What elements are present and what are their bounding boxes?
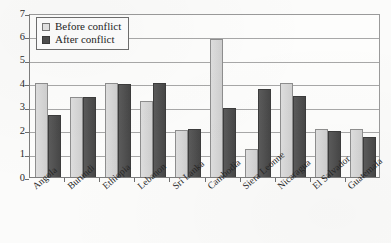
y-axis-tick-label: 1 — [3, 149, 25, 160]
bar-group — [245, 15, 271, 177]
legend-label-before: Before conflict — [55, 21, 121, 32]
bar — [210, 39, 223, 177]
bar — [70, 97, 83, 177]
legend-item-before: Before conflict — [42, 21, 121, 32]
y-axis-tick — [25, 15, 29, 16]
chart-legend: Before conflict After conflict — [36, 17, 129, 50]
bar-group — [175, 15, 201, 177]
legend-swatch-before-icon — [42, 23, 50, 31]
chart-figure: 01234567 AngolaBurundiEthiopiaLebanonSri… — [0, 0, 391, 243]
bar — [280, 83, 293, 177]
y-axis-tick-label: 4 — [3, 79, 25, 90]
bar-group — [350, 15, 376, 177]
y-axis-tick — [25, 85, 29, 86]
y-axis-tick-label: 3 — [3, 102, 25, 113]
bar — [105, 83, 118, 177]
y-axis-tick — [25, 109, 29, 110]
bar — [140, 101, 153, 177]
legend-swatch-after-icon — [42, 36, 50, 44]
bar — [35, 83, 48, 177]
y-axis-tick — [25, 62, 29, 63]
legend-item-after: After conflict — [42, 34, 121, 45]
y-axis-tick-label: 7 — [3, 9, 25, 20]
y-axis-tick — [25, 132, 29, 133]
y-axis-tick-label: 2 — [3, 126, 25, 137]
y-axis-tick-label: 5 — [3, 55, 25, 66]
y-axis-tick — [25, 38, 29, 39]
x-axis-labels: AngolaBurundiEthiopiaLebanonSri LankaCam… — [0, 183, 391, 243]
legend-label-after: After conflict — [55, 34, 115, 45]
y-axis-tick-label: 6 — [3, 32, 25, 43]
bar-group — [140, 15, 166, 177]
y-axis-tick-label: 0 — [3, 173, 25, 184]
bar-group — [210, 15, 236, 177]
y-axis-tick — [25, 156, 29, 157]
bar-group — [315, 15, 341, 177]
y-axis-labels: 01234567 — [0, 14, 25, 178]
bar-group — [280, 15, 306, 177]
